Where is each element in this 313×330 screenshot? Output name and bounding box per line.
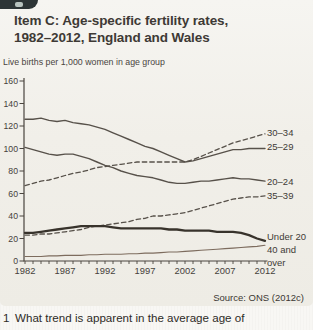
y-tick-label: 100: [4, 144, 19, 154]
figure-tab: [0, 0, 38, 9]
series-line-40-and-over: [25, 245, 265, 256]
x-tick-label: 1992: [95, 265, 116, 276]
y-tick-label: 20: [8, 234, 18, 244]
y-tick-label: 80: [8, 166, 18, 176]
y-tick-label: 40: [8, 211, 18, 221]
y-tick-label: 60: [8, 189, 18, 199]
chart-title: Item C: Age-specific fertility rates, 19…: [14, 13, 306, 46]
legend-label-under-20: Under 20: [267, 231, 306, 244]
legend-label-30-34: 30–34: [267, 127, 293, 140]
legend-label-40-and-over: 40 and over: [267, 244, 313, 269]
chart-title-line2: 1982–2012, England and Wales: [14, 30, 306, 47]
x-tick-label: 1982: [15, 265, 36, 276]
y-tick-label: 140: [4, 99, 19, 109]
source-attribution: Source: ONS (2012c): [213, 292, 304, 303]
x-tick-label: 2007: [215, 265, 236, 276]
x-tick-label: 1997: [135, 265, 156, 276]
figure-number-fragment: [15, 2, 23, 7]
item-c-panel: Item C: Age-specific fertility rates, 19…: [0, 0, 313, 306]
y-tick-label: 160: [4, 76, 19, 86]
x-tick-label: 2002: [175, 265, 196, 276]
axes: [24, 78, 268, 261]
series-line-20-24: [25, 147, 265, 183]
question-number: 1: [3, 311, 15, 324]
x-tick-label: 1987: [55, 265, 76, 276]
y-axis-unit-label: Live births per 1,000 women in age group: [3, 57, 165, 67]
legend-label-25-29: 25–29: [267, 141, 293, 154]
legend-label-35-39: 35–39: [267, 190, 293, 203]
y-tick-label: 120: [4, 121, 19, 131]
question-text: What trend is apparent in the average ag…: [15, 311, 244, 324]
chart-title-line1: Item C: Age-specific fertility rates,: [14, 13, 306, 30]
series-line-under-20: [25, 226, 265, 241]
legend-label-20-24: 20–24: [267, 176, 293, 189]
series-line-25-29: [25, 118, 265, 162]
question-1: 1 What trend is apparent in the average …: [3, 311, 309, 324]
